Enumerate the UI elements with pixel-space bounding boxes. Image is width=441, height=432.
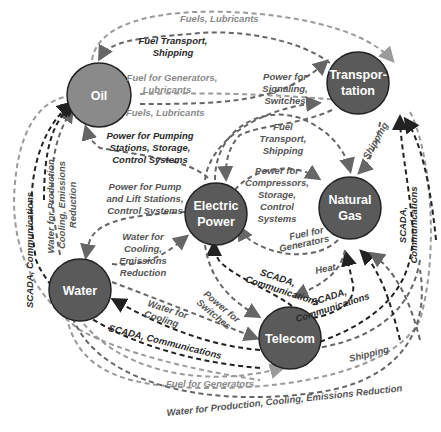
edge-fuel-transport-shipping-top [100, 32, 330, 63]
node-transportation-circle [327, 52, 389, 114]
node-natural-gas[interactable]: Natural Gas [319, 177, 381, 239]
label-scada-right-2: Communications [408, 186, 419, 263]
label-water-for-cooling-emissions-3: Emissions [119, 255, 167, 266]
label-power-for-pumping-1: Power for Pumping [106, 130, 193, 141]
node-oil[interactable]: Oil [67, 63, 131, 127]
label-power-for-signaling-3: Switches [264, 95, 305, 106]
label-power-for-compressors-5: Systems [257, 213, 296, 224]
node-electric-power-label-2: Power [197, 215, 235, 229]
label-fuel-transport-top-2: Shipping [153, 47, 194, 58]
label-power-for-pump-lift-2: and Lift Stations, [106, 193, 183, 204]
label-power-for-pump-lift-1: Power for Pump [109, 181, 182, 192]
interdependency-diagram: Oil Transpor- tation Electric Power Natu… [0, 0, 441, 432]
node-telecom-label: Telecom [265, 332, 315, 346]
node-transportation-label-1: Transpor- [329, 68, 387, 82]
node-transportation[interactable]: Transpor- tation [327, 52, 389, 114]
label-water-for-production-left: Water for Production, Cooling, Emissions… [45, 157, 78, 254]
label-power-for-compressors-3: Storage, [258, 189, 296, 200]
label-scada-right: SCADA, Communications [397, 186, 419, 263]
label-fuel-for-generators-bottom: Fuel for Generators [166, 378, 254, 389]
label-water-for-production-left-3: Reduction [67, 182, 78, 229]
node-electric-power[interactable]: Electric Power [185, 183, 247, 245]
label-power-for-pump-lift-3: Control Systems [107, 205, 183, 216]
label-scada-left: SCADA, Communications [24, 192, 35, 308]
node-transportation-label-2: tation [341, 84, 375, 98]
label-fuels-lubricants-top: Fuels, Lubricants [180, 13, 259, 24]
label-water-for-cooling-emissions-4: Reduction [120, 267, 167, 278]
node-natural-gas-label-2: Gas [338, 209, 362, 223]
label-fuel-transport-top-1: Fuel Transport, [139, 35, 208, 46]
label-fuel-transport-mid-3: Shipping [263, 145, 304, 156]
label-shipping-trans-gas: Shipping [360, 120, 390, 161]
label-shipping-telecom: Shipping [348, 343, 390, 364]
label-scada-right-1: SCADA, [397, 207, 408, 243]
label-power-for-pumping-2: Stations, Storage, [110, 142, 191, 153]
label-fuel-transport-mid-2: Transport, [260, 133, 307, 144]
node-natural-gas-label-1: Natural [328, 193, 371, 207]
node-water[interactable]: Water [49, 259, 111, 321]
label-power-for-signaling-2: Signaling, [262, 83, 307, 94]
node-electric-power-label-1: Electric [193, 199, 238, 213]
label-water-for-production-left-2: Cooling, Emissions [56, 161, 67, 249]
label-water-for-production-left-1: Water for Production, [45, 157, 56, 254]
label-power-for-signaling-1: Power for [263, 71, 308, 82]
node-water-label: Water [63, 284, 97, 298]
label-fuel-transport-mid-1: Fuel [273, 121, 293, 132]
label-power-for-compressors-1: Power for [255, 165, 300, 176]
label-fuel-for-generators-lubricants-2: Lubricants [143, 84, 192, 95]
label-water-for-cooling-emissions-2: Cooling, [124, 243, 162, 254]
label-power-for-switches: Power for Switches [195, 288, 244, 334]
node-natural-gas-circle [319, 177, 381, 239]
node-oil-label: Oil [91, 89, 108, 103]
label-fuels-lubricants-mid: Fuels, Lubricants [126, 107, 205, 118]
label-power-for-pumping-3: Control Systems [112, 154, 188, 165]
label-power-for-compressors-2: Compressors, [245, 177, 309, 188]
label-fuel-for-generators-lubricants-1: Fuel for Generators, [127, 72, 218, 83]
node-electric-power-circle [185, 183, 247, 245]
label-water-for-cooling-emissions-1: Water for [122, 231, 165, 242]
label-power-for-compressors-4: Control [260, 201, 294, 212]
